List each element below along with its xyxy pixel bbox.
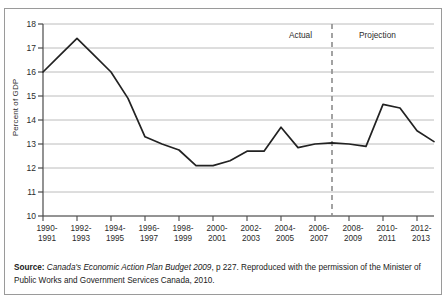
source-label: Source: (14, 263, 44, 272)
figure-container: Percent of GDP 18 17 16 15 14 13 12 11 1… (0, 0, 447, 300)
gridlines (43, 24, 434, 216)
x-tick-marks (43, 216, 417, 221)
data-series-line (43, 38, 434, 165)
source-note: Source: Canada's Economic Action Plan Bu… (14, 262, 432, 287)
plot-svg (4, 8, 442, 256)
y-tick-marks (38, 24, 43, 216)
source-title: Canada's Economic Action Plan Budget 200… (47, 263, 212, 272)
chart-area: Percent of GDP 18 17 16 15 14 13 12 11 1… (4, 8, 442, 256)
